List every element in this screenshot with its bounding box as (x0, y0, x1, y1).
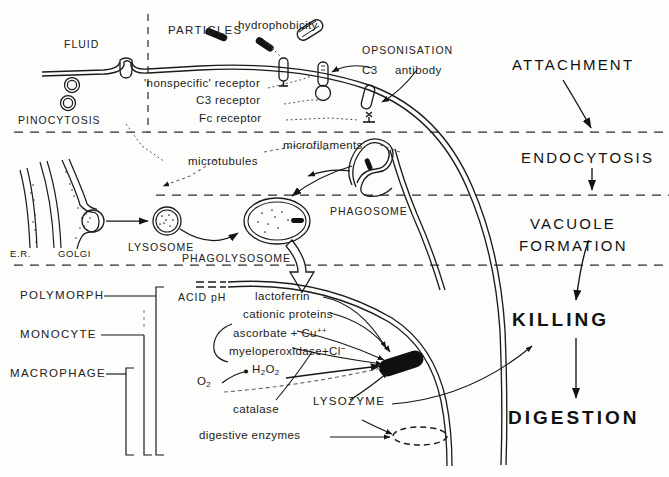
arrow-o2-to-h2o2 (222, 369, 248, 383)
endoplasmic-reticulum (20, 161, 61, 248)
phagocytosis-diagram: FLUID PINOCYTOSIS PARTICLES hydrophobici… (0, 0, 669, 477)
label-hydrophobicity: hydrophobicity (238, 20, 318, 32)
label-lactoferrin: lactoferrin (255, 291, 310, 303)
pseudopod-membrane (390, 149, 445, 290)
arrow-h2o2 (286, 366, 380, 378)
label-er: E.R. (10, 249, 31, 259)
stage-label-endocytosis: ENDOCYTOSIS (521, 150, 654, 165)
label-cationic-proteins: cationic proteins (243, 309, 333, 321)
label-pinocytosis: PINOCYTOSIS (18, 115, 101, 126)
arrow-phagosome-label (308, 170, 350, 176)
label-phagosome: PHAGOSOME (330, 206, 408, 217)
label-macrophage: MACROPHAGE (10, 368, 106, 380)
leader-c3-receptor (284, 100, 322, 104)
label-phagolysosome: PHAGOLYSOSOME (182, 253, 291, 264)
vacuole-dashed-edge (196, 282, 226, 287)
label-fc-receptor: Fc receptor (199, 113, 262, 125)
stage-label-vacuole: VACUOLE (530, 216, 616, 231)
label-opsonisation: OPSONISATION (362, 45, 453, 56)
label-catalase: catalase (233, 404, 279, 416)
bracket-polymorph (156, 287, 164, 455)
arrow-to-phagosome (308, 170, 350, 176)
leader-pinocytosis (126, 124, 165, 162)
label-lysozyme: LYSOZYME (313, 396, 385, 408)
phagolysosome-body (244, 198, 310, 244)
label-golgi: GOLGI (58, 249, 91, 259)
arrow-attachment-to-endocytosis (563, 80, 591, 128)
bracket-monocyte (144, 335, 152, 455)
phagosome-bacterium (364, 158, 373, 171)
peroxide-sub2: 2 (275, 368, 280, 377)
label-hydrogen-peroxide: H2O2 (252, 364, 280, 377)
label-monocyte: MONOCYTE (20, 329, 97, 341)
label-nonspecific-receptor: 'nonspecific' receptor (144, 78, 260, 90)
myeloperoxidase-text: myeloperoxidase+Cl (229, 345, 341, 357)
pinocytic-vesicles (61, 78, 80, 111)
oxygen-subscript: 2 (206, 380, 211, 389)
leader-fc-receptor (286, 118, 358, 120)
digested-debris-vacuole (393, 427, 447, 445)
oxygen-symbol: O (197, 375, 206, 387)
ascorbate-text: ascorbate + Cu (233, 327, 317, 339)
label-lysosome: LYSOSOME (128, 242, 194, 253)
label-digestive-enzymes: digestive enzymes (199, 430, 300, 442)
arrow-lysosome-to-phagolysosome (180, 229, 238, 241)
label-fluid: FLUID (64, 39, 99, 50)
label-antibody: antibody (395, 65, 442, 77)
label-microfilaments: microfilaments (283, 140, 363, 152)
label-microtubules: microtubules (188, 156, 258, 168)
ascorbate-charge: ++ (317, 326, 327, 335)
label-c3-receptor: C3 receptor (196, 95, 260, 107)
stage-label-attachment: ATTACHMENT (512, 57, 634, 72)
golgi-vesicle (82, 210, 104, 232)
leader-nonspecific-receptor (268, 76, 312, 88)
bracket-macrophage (126, 368, 134, 455)
label-oxygen: O2 (197, 376, 211, 389)
peroxide-h: H (252, 363, 261, 375)
pinocytosis-pit (120, 62, 132, 78)
peroxide-o: O (265, 363, 274, 375)
stage-label-formation: FORMATION (519, 238, 628, 253)
stage-label-killing: KILLING (512, 310, 609, 329)
arrow-lysozyme-debris (362, 420, 392, 434)
bracket-dotted-segments (144, 310, 156, 420)
label-c3: C3 (362, 65, 378, 77)
target-bacterium (377, 348, 426, 378)
lysosome-body (153, 207, 181, 235)
stage-label-digestion: DIGESTION (508, 408, 640, 427)
label-myeloperoxidase: myeloperoxidase+Cl− (229, 345, 346, 357)
c3-receptor-particle (316, 62, 331, 101)
chloride-charge: − (341, 344, 346, 353)
label-acid-ph: ACID pH (178, 292, 226, 303)
label-polymorph: POLYMORPH (20, 290, 104, 302)
golgi-apparatus (62, 159, 99, 249)
label-particles: PARTICLES (168, 25, 243, 37)
label-ascorbate: ascorbate + Cu++ (233, 327, 327, 339)
cell-type-brackets (101, 287, 164, 455)
